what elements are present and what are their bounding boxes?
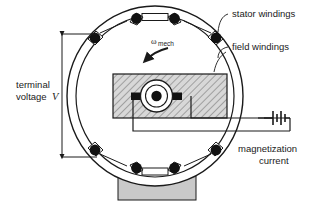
terminal-voltage-symbol: V [52,91,60,102]
field-windings-label: field windings [232,41,289,52]
terminal-voltage-label-line2: voltage [16,91,47,102]
stator-windings-label: stator windings [232,8,296,19]
magnetization-current-label-line1: magnetization [238,143,297,154]
rotor-shaft [141,80,173,112]
omega-mech-symbol: ω [151,36,157,46]
figure-synchronous-generator: stator windings field windings magnetiza… [0,0,324,206]
omega-mech-subscript: mech [158,40,174,47]
magnetization-current-label-line2: current [259,155,289,166]
diagram-canvas: stator windings field windings magnetiza… [0,0,324,206]
dc-source-battery [258,111,302,131]
terminal-voltage-label-line1: terminal [16,79,50,90]
